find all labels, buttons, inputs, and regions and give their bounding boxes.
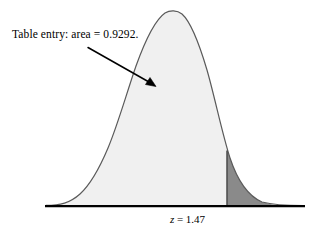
normal-curve-figure: Table entry: area = 0.9292. z = 1.47 (0, 0, 313, 241)
z-value-label: z = 1.47 (0, 213, 313, 225)
area-left-fill (40, 11, 305, 207)
z-value-text: = 1.47 (174, 213, 205, 225)
area-annotation-label: Table entry: area = 0.9292. (12, 28, 139, 40)
